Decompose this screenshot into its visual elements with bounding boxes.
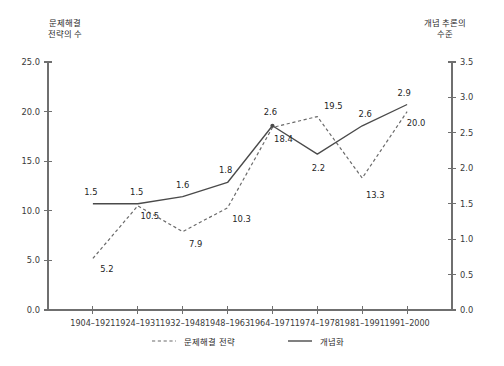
chart-legend: 문제해결 전략개념화 [152, 337, 344, 347]
series-line-1 [93, 112, 407, 259]
data-value-label: 2.2 [312, 163, 325, 173]
data-value-label: 20.0 [407, 118, 426, 128]
legend-label: 개념화 [320, 337, 344, 347]
series-lines [93, 105, 407, 259]
right-tick-label: 3.0 [460, 92, 473, 102]
x-axis-category-label: 1904–1921 [70, 318, 115, 328]
x-axis-category-label: 1964–1971 [250, 318, 295, 328]
data-value-label: 5.2 [100, 264, 113, 274]
legend-label: 문제해결 전략 [184, 337, 235, 347]
data-value-label: 1.8 [219, 165, 232, 175]
data-value-label: 1.6 [176, 180, 189, 190]
left-tick-label: 5.0 [27, 255, 40, 265]
dual-axis-line-chart: 문제해결 전략의 수 개념 추론의 수준 0.05.010.015.020.02… [0, 0, 504, 366]
chart-container: 문제해결 전략의 수 개념 추론의 수준 0.05.010.015.020.02… [0, 0, 504, 366]
data-value-label: 7.9 [189, 239, 202, 249]
x-axis-category-label: 1948–1963 [205, 318, 250, 328]
data-value-label: 2.9 [397, 88, 410, 98]
right-axis-title-line1: 개념 추론의 [424, 18, 467, 28]
right-tick-label: 0.0 [460, 305, 473, 315]
data-value-labels: 5.210.57.910.318.419.513.320.01.51.51.61… [84, 88, 425, 275]
right-tick-label: 0.5 [460, 270, 473, 280]
left-tick-label: 10.0 [22, 206, 40, 216]
left-tick-label: 15.0 [22, 156, 40, 166]
right-tick-label: 1.5 [460, 199, 473, 209]
data-value-label: 1.5 [84, 187, 97, 197]
left-axis-title: 문제해결 전략의 수 [48, 18, 83, 39]
left-tick-label: 20.0 [22, 107, 40, 117]
left-axis-title-line1: 문제해결 [49, 18, 81, 28]
series-point-marker [270, 124, 274, 128]
x-axis-category-label: 1981–1991 [340, 318, 385, 328]
left-tick-label: 25.0 [22, 57, 40, 67]
data-value-label: 13.3 [366, 190, 385, 200]
x-axis-category-label: 1924–1931 [115, 318, 160, 328]
x-axis-category-labels: 1904–19211924–19311932–19481948–19631964… [70, 318, 429, 328]
right-tick-label: 2.0 [460, 163, 473, 173]
data-value-label: 1.5 [130, 187, 143, 197]
data-value-label: 2.6 [359, 109, 372, 119]
x-axis-category-label: 1974–1978 [295, 318, 340, 328]
right-tick-label: 2.5 [460, 128, 473, 138]
left-axis-ticks: 0.05.010.015.020.025.0 [22, 57, 52, 315]
data-value-label: 18.4 [274, 134, 293, 144]
data-value-label: 10.5 [140, 211, 159, 221]
left-axis-title-line2: 전략의 수 [48, 29, 83, 39]
data-value-label: 10.3 [232, 214, 251, 224]
right-axis-title-line2: 수준 [437, 29, 453, 39]
x-axis-category-label: 1991–2000 [384, 318, 429, 328]
right-tick-label: 3.5 [460, 57, 473, 67]
left-tick-label: 0.0 [27, 305, 40, 315]
right-tick-label: 1.0 [460, 234, 473, 244]
data-value-label: 19.5 [324, 101, 343, 111]
x-axis-category-label: 1932–1948 [160, 318, 205, 328]
right-axis-title: 개념 추론의 수준 [424, 18, 467, 39]
data-value-label: 2.6 [264, 107, 277, 117]
